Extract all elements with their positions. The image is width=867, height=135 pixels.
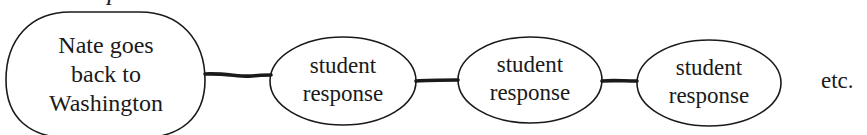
response-3-line-2: response [669, 82, 749, 110]
connector-1 [205, 74, 271, 76]
response-1-text: student response [272, 45, 414, 115]
response-3-line-1: student [669, 54, 749, 82]
response-1-line-1: student [303, 52, 383, 80]
connector-2 [416, 80, 458, 81]
etc-label: etc. [821, 67, 854, 95]
response-3-text: student response [639, 47, 779, 117]
response-2-line-1: student [490, 51, 570, 79]
response-1-line-2: response [303, 80, 383, 108]
main-node-line-1: Nate goes [49, 31, 163, 60]
main-node-line-2: back to [49, 60, 163, 89]
main-node-line-3: Washington [49, 89, 163, 118]
response-2-line-2: response [490, 79, 570, 107]
response-2-text: student response [460, 44, 600, 114]
main-node-text: Nate goes back to Washington [10, 26, 202, 122]
